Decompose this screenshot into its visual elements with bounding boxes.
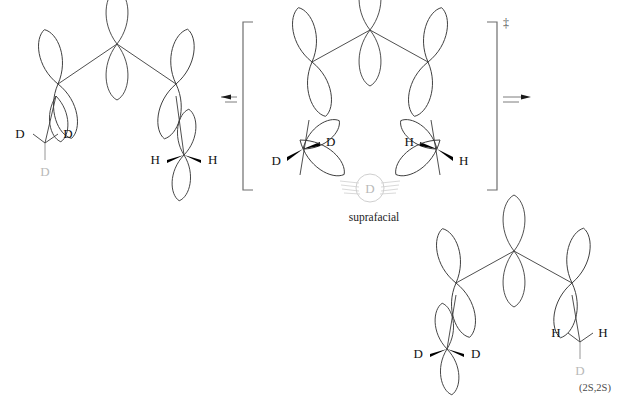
atom-label-D-migrating: D <box>365 181 374 196</box>
atom-label-D: D <box>326 134 335 149</box>
reverse-arrow <box>221 95 237 103</box>
structure-reactant: D D D H H <box>15 0 217 202</box>
right-bracket <box>487 22 497 190</box>
product-ch2d-group: H H D <box>551 295 607 378</box>
reactant-p-orbital-right <box>154 27 199 141</box>
ts-migrating-atom: D <box>340 174 400 202</box>
ts-stereocenter-left: D D <box>272 114 345 175</box>
atom-label-H: H <box>598 325 607 340</box>
reaction-scheme-figure: D D D H H <box>0 0 635 411</box>
ts-p-orbital-upper-right <box>404 5 452 119</box>
forward-arrow <box>503 95 531 103</box>
atom-label-H: H <box>208 152 217 167</box>
ts-terminal-lobe-left <box>293 131 351 183</box>
product-bond-framework <box>456 251 572 283</box>
double-dagger-marker: ‡ <box>503 16 509 30</box>
structure-transition-state: D D H H <box>272 0 469 224</box>
atom-label-H: H <box>459 153 468 168</box>
product-p-orbital-right <box>550 226 595 340</box>
atom-label-D: D <box>471 346 480 361</box>
ts-stereocenter-right: H H <box>395 114 468 175</box>
product-p-orbital-left <box>432 226 480 340</box>
atom-label-D: D <box>15 126 24 141</box>
transition-state-caption: suprafacial <box>349 211 399 224</box>
reactant-p-orbital-left <box>34 27 82 141</box>
reactant-bond-framework <box>58 44 176 84</box>
product-p-orbital-center <box>503 195 525 307</box>
atom-label-H: H <box>551 325 560 340</box>
stereo-descriptor: (2S,2S) <box>579 382 611 394</box>
atom-label-H: H <box>151 152 160 167</box>
structure-product: D D H H D (2S,2S) <box>414 195 612 396</box>
left-bracket <box>243 22 253 190</box>
ts-terminal-lobe-right <box>389 131 447 183</box>
atom-label-D: D <box>272 153 281 168</box>
reactant-sp3-right <box>170 96 198 202</box>
atom-label-D: D <box>63 126 72 141</box>
reactant-cd3-group: D D D <box>15 126 72 179</box>
ts-p-orbital-top-center <box>359 0 381 86</box>
ts-bond-framework <box>312 30 428 62</box>
atom-label-D: D <box>414 346 423 361</box>
atom-label-H: H <box>405 134 414 149</box>
ts-p-orbital-upper-left <box>288 5 336 119</box>
reactant-p-orbital-center <box>106 0 128 100</box>
product-stereocenter-left: D D <box>414 295 481 396</box>
atom-label-D-ghost: D <box>40 164 49 179</box>
atom-label-D-ghost: D <box>575 363 584 378</box>
